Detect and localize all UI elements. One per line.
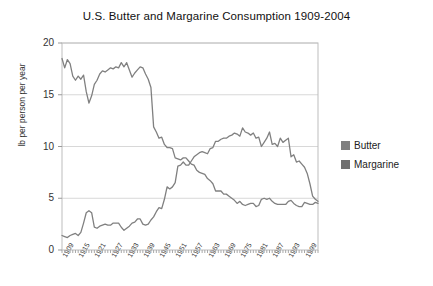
legend-label: Butter — [354, 140, 381, 151]
chart-container: U.S. Butter and Margarine Consumption 19… — [0, 0, 433, 286]
series-lines — [62, 59, 318, 238]
legend-swatch-icon — [341, 141, 350, 150]
y-axis-ticks — [58, 43, 62, 250]
series-line-margarine — [62, 128, 318, 238]
gridlines — [62, 43, 318, 198]
legend-label: Margarine — [354, 159, 399, 170]
legend-swatch-icon — [341, 160, 350, 169]
legend-item-margarine[interactable]: Margarine — [341, 155, 431, 174]
legend-item-butter[interactable]: Butter — [341, 136, 431, 155]
chart-legend: ButterMargarine — [341, 136, 431, 174]
series-line-butter — [62, 59, 318, 207]
